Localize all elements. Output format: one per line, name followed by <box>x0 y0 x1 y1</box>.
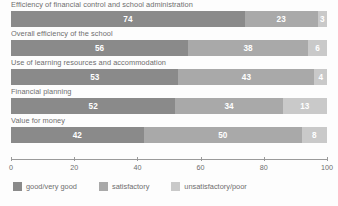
legend: good/very good satisfactory unsatisfacto… <box>13 182 269 191</box>
segment-value: 4 <box>318 73 323 82</box>
segment-value: 6 <box>315 44 320 53</box>
segment-value: 8 <box>312 131 317 140</box>
segment-value: 56 <box>95 44 104 53</box>
bar-segment-unsatisfactory: 6 <box>308 40 327 56</box>
stacked-bar: 56 38 6 <box>11 40 327 56</box>
axis-tick-label: 40 <box>133 163 141 172</box>
bar-segment-good: 42 <box>11 127 144 143</box>
segment-value: 43 <box>242 73 251 82</box>
axis-tick-label: 80 <box>260 163 268 172</box>
bar-group: Value for money 42 50 8 <box>11 116 327 143</box>
axis-tick <box>327 157 328 161</box>
bar-segment-good: 56 <box>11 40 188 56</box>
bar-segment-unsatisfactory: 8 <box>302 127 327 143</box>
axis-tick-label: 0 <box>9 163 13 172</box>
segment-value: 50 <box>218 131 227 140</box>
bar-group: Overall efficiency of the school 56 38 6 <box>11 29 327 56</box>
segment-value: 52 <box>89 102 98 111</box>
segment-value: 13 <box>300 102 309 111</box>
axis-tick <box>137 157 138 161</box>
legend-label: unsatisfactory/poor <box>184 182 246 191</box>
axis-tick-label: 60 <box>197 163 205 172</box>
bar-segment-unsatisfactory: 4 <box>314 69 327 85</box>
category-label: Efficiency of financial control and scho… <box>11 0 327 11</box>
axis-tick-label: 100 <box>321 163 333 172</box>
legend-label: satisfactory <box>112 182 149 191</box>
legend-item-unsatisfactory: unsatisfactory/poor <box>171 182 246 191</box>
axis-tick-label: 20 <box>70 163 78 172</box>
stacked-bar: 53 43 4 <box>11 69 327 85</box>
bar-segment-satisfactory: 50 <box>144 127 302 143</box>
x-axis: 0 20 40 60 80 100 <box>11 159 327 181</box>
axis-tick <box>11 157 12 161</box>
bar-segment-good: 74 <box>11 11 245 27</box>
stacked-bar: 74 23 3 <box>11 11 327 27</box>
bar-group: Use of learning resources and accommodat… <box>11 58 327 85</box>
stacked-bar: 52 34 13 <box>11 98 327 114</box>
legend-label: good/very good <box>26 182 77 191</box>
bar-segment-satisfactory: 43 <box>178 69 314 85</box>
bar-segment-satisfactory: 34 <box>175 98 282 114</box>
plot-area: Efficiency of financial control and scho… <box>11 0 327 145</box>
bar-group: Efficiency of financial control and scho… <box>11 0 327 27</box>
legend-item-good: good/very good <box>13 182 77 191</box>
bar-segment-unsatisfactory: 3 <box>318 11 327 27</box>
legend-swatch-icon <box>13 182 22 191</box>
axis-tick <box>264 157 265 161</box>
axis-tick <box>74 157 75 161</box>
category-label: Overall efficiency of the school <box>11 29 327 40</box>
segment-value: 23 <box>277 15 286 24</box>
axis-tick <box>201 157 202 161</box>
stacked-bar-chart: Efficiency of financial control and scho… <box>0 0 338 206</box>
bar-segment-satisfactory: 38 <box>188 40 308 56</box>
segment-value: 42 <box>73 131 82 140</box>
bar-group: Financial planning 52 34 13 <box>11 87 327 114</box>
stacked-bar: 42 50 8 <box>11 127 327 143</box>
bar-segment-unsatisfactory: 13 <box>283 98 327 114</box>
segment-value: 74 <box>123 15 132 24</box>
segment-value: 34 <box>224 102 233 111</box>
bar-segment-good: 53 <box>11 69 178 85</box>
legend-swatch-icon <box>171 182 180 191</box>
axis-line <box>11 159 327 160</box>
bar-segment-satisfactory: 23 <box>245 11 318 27</box>
segment-value: 53 <box>90 73 99 82</box>
category-label: Use of learning resources and accommodat… <box>11 58 327 69</box>
segment-value: 38 <box>243 44 252 53</box>
category-label: Financial planning <box>11 87 327 98</box>
legend-item-satisfactory: satisfactory <box>99 182 149 191</box>
segment-value: 3 <box>320 15 325 24</box>
bar-segment-good: 52 <box>11 98 175 114</box>
category-label: Value for money <box>11 116 327 127</box>
legend-swatch-icon <box>99 182 108 191</box>
